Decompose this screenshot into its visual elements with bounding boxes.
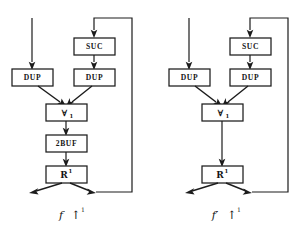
node-rbox-right-superscript: 1 [225, 168, 229, 174]
edge-dup-left-to-forall-right [195, 86, 216, 102]
arrowhead-rbox-feedback-right [243, 189, 252, 195]
arrowhead-feedback-into-suc-right [247, 30, 254, 38]
node-dup-left-left-label: DUP [24, 73, 41, 82]
arrowhead-rbox-feedback-left [87, 189, 96, 195]
arrowhead-feedback-into-suc-left [91, 30, 98, 38]
edge-rbox-to-feedback-left [70, 183, 90, 191]
figure-canvas: SUC DUP DUP ∀ 1 2BUF [0, 0, 301, 240]
diagram-left: SUC DUP DUP ∀ 1 2BUF [12, 18, 132, 222]
node-dup-left-right-label: DUP [181, 73, 198, 82]
node-rbox-left-label: R [60, 170, 68, 180]
edge-rbox-to-output-right [192, 183, 218, 191]
figure-dataflow-network-pair: SUC DUP DUP ∀ 1 2BUF [0, 0, 301, 240]
node-forall-right-subscript: 1 [226, 113, 230, 119]
caption-right-superscript: 1 [237, 206, 241, 213]
caption-left-superscript: 1 [81, 206, 85, 213]
node-dup-right-right-label: DUP [242, 73, 259, 82]
node-suc-left-label: SUC [86, 42, 103, 51]
node-rbox-right-label: R [216, 170, 224, 180]
caption-right: f′ ↑ 1 [211, 206, 241, 222]
node-forall-left-label: ∀ [62, 108, 68, 118]
edge-rbox-to-output-left [36, 183, 62, 191]
edge-dup-right-to-forall-left [72, 86, 92, 102]
caption-right-symbol: f′ [211, 209, 219, 222]
edge-rbox-to-feedback-right [226, 183, 246, 191]
caption-left-operator: ↑ [71, 208, 81, 222]
node-dup-right-left-label: DUP [86, 73, 103, 82]
node-forall-right-label: ∀ [218, 108, 224, 118]
caption-left: f ↑ 1 [58, 206, 85, 222]
caption-right-operator: ↑ [227, 208, 237, 222]
edge-dup-right-to-forall-right [228, 86, 248, 102]
edge-dup-left-to-forall-left [38, 86, 60, 102]
node-rbox-left-superscript: 1 [69, 168, 73, 174]
node-twobuf-left-label: 2BUF [56, 139, 77, 148]
caption-left-symbol: f [58, 209, 65, 222]
diagram-right: SUC DUP DUP ∀ 1 R [169, 18, 288, 222]
node-suc-right-label: SUC [242, 42, 259, 51]
node-forall-left-subscript: 1 [70, 113, 74, 119]
